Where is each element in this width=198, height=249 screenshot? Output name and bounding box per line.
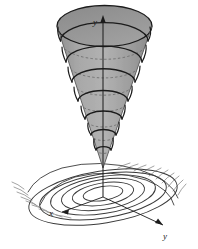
cone-helix-diagram: x y [0, 0, 198, 249]
y-axis-label-ground: y [162, 231, 167, 241]
figure-root: x y [0, 0, 198, 249]
vertical-axis-label: y [92, 17, 97, 27]
x-axis-line [62, 197, 103, 212]
x-axis-label: x [48, 208, 53, 218]
cone-top-ellipse [57, 6, 152, 47]
y-axis-arrowhead [155, 219, 163, 226]
